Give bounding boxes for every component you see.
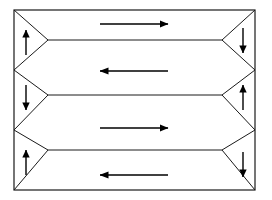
outer-rectangle-border xyxy=(14,10,255,190)
divider-lower xyxy=(14,130,255,190)
diagram-canvas xyxy=(0,0,272,200)
serpentine-flow-diagram xyxy=(0,0,272,200)
divider-middle xyxy=(14,70,255,130)
lane-arrows-group xyxy=(100,24,168,175)
turn-arrows-group xyxy=(26,28,243,177)
divider-group xyxy=(14,10,255,190)
divider-upper xyxy=(14,10,255,70)
